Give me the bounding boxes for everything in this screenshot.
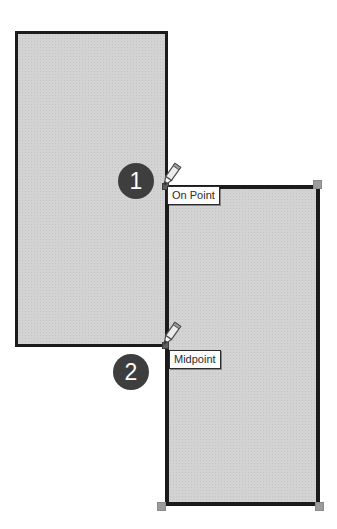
- callout-number: 1: [130, 170, 143, 193]
- callout-badge-1: 1: [118, 163, 154, 199]
- snap-tooltip-midpoint: Midpoint: [169, 350, 221, 369]
- vertex-handle-top-right[interactable]: [313, 180, 322, 189]
- drawing-canvas: 1 2 On Point Midpoint: [0, 0, 337, 529]
- vertex-handle-bottom-right[interactable]: [315, 502, 324, 511]
- callout-badge-2: 2: [113, 354, 149, 390]
- vertex-handle-bottom-left[interactable]: [157, 502, 166, 511]
- pencil-cursor-icon: [161, 160, 185, 188]
- right-rectangle-face[interactable]: [165, 185, 320, 506]
- pencil-cursor-icon: [161, 319, 185, 347]
- snap-tooltip-on-point: On Point: [167, 186, 220, 205]
- callout-number: 2: [125, 361, 138, 384]
